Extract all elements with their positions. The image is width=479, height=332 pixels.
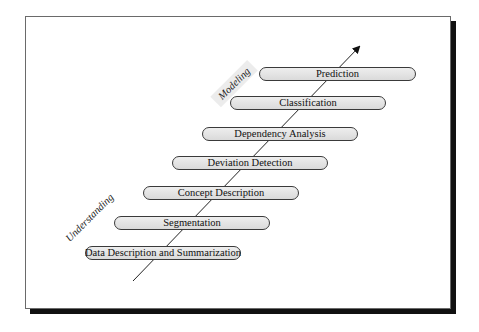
step-data-description: Data Description and Summarization (85, 246, 241, 260)
step-segmentation: Segmentation (114, 216, 270, 230)
step-dependency-analysis: Dependency Analysis (202, 127, 358, 141)
step-classification: Classification (230, 96, 386, 110)
step-concept-description: Concept Description (143, 186, 299, 200)
step-prediction: Prediction (259, 67, 416, 81)
step-deviation-detection: Deviation Detection (172, 156, 328, 170)
